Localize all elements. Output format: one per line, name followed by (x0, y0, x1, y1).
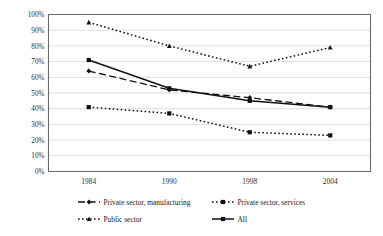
legend-item[interactable]: Public sector (78, 215, 142, 224)
series-private-sector-manufacturing (86, 68, 332, 109)
y-axis-tick-label: 90% (31, 27, 44, 35)
data-point-marker (221, 217, 225, 221)
legend-label: Private sector, services (238, 198, 306, 207)
y-axis-tick-label: 40% (31, 105, 44, 113)
data-point-marker (87, 199, 92, 204)
series-line (89, 107, 331, 135)
series-line (89, 71, 331, 107)
data-point-marker (328, 105, 332, 109)
x-axis-tick-label: 1998 (242, 177, 257, 186)
series-all (87, 58, 333, 109)
data-point-marker (221, 200, 225, 204)
data-point-marker (248, 130, 252, 134)
legend-item[interactable]: All (212, 215, 247, 224)
x-axis-tick-label: 2004 (323, 177, 338, 186)
series-layer (86, 20, 332, 138)
legend-label: All (238, 215, 247, 224)
data-point-marker (328, 133, 332, 137)
x-axis-tick-label: 1990 (162, 177, 177, 186)
series-public-sector (86, 20, 332, 69)
y-axis-tick-label: 60% (31, 74, 44, 82)
line-chart: 0%10%20%30%40%50%60%70%80%90%100% 198419… (0, 0, 383, 236)
series-private-sector-services (87, 105, 333, 137)
legend: Private sector, manufacturingPrivate sec… (78, 198, 305, 224)
y-axis-tick-label: 10% (31, 152, 44, 160)
gridlines (49, 15, 371, 156)
y-axis-tick-label: 30% (31, 121, 44, 129)
y-axis-tick-labels: 0%10%20%30%40%50%60%70%80%90%100% (28, 11, 45, 176)
y-axis-tick-label: 70% (31, 58, 44, 66)
data-point-marker (248, 99, 252, 103)
y-axis-tick-label: 0% (35, 168, 45, 176)
y-axis-tick-label: 50% (31, 90, 44, 98)
legend-label: Private sector, manufacturing (104, 198, 191, 207)
data-point-marker (87, 105, 91, 109)
legend-item[interactable]: Private sector, manufacturing (78, 198, 191, 207)
y-axis-tick-label: 100% (28, 11, 45, 19)
x-axis-tick-label: 1984 (81, 177, 96, 186)
y-axis-tick-label: 80% (31, 43, 44, 51)
legend-item[interactable]: Private sector, services (212, 198, 305, 207)
data-point-marker (167, 86, 171, 90)
x-axis-tick-labels: 1984199019982004 (81, 177, 338, 186)
data-point-marker (167, 111, 171, 115)
data-point-marker (86, 68, 91, 73)
chart-container: 0%10%20%30%40%50%60%70%80%90%100% 198419… (0, 0, 383, 236)
series-line (89, 60, 331, 107)
series-line (89, 22, 331, 66)
data-point-marker (87, 58, 91, 62)
legend-label: Public sector (104, 215, 143, 224)
y-axis-tick-label: 20% (31, 137, 44, 145)
